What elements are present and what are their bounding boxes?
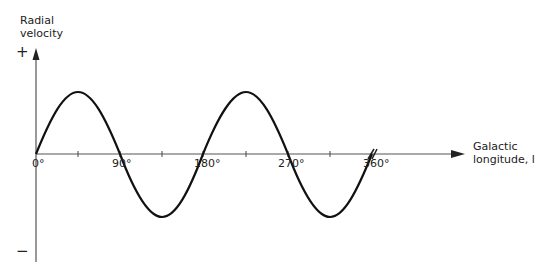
tick-label-360: 360° [363,157,390,170]
tick-label-0: 0° [32,157,45,170]
x-axis-label-line2: longitude, l [473,153,535,166]
negative-sign: − [16,242,29,260]
x-axis-arrowhead [451,150,465,158]
tick-label-270: 270° [278,157,305,170]
x-axis-label: Galactic longitude, l [473,140,535,166]
y-axis-label-line2: velocity [20,27,63,40]
x-axis-label-line1: Galactic [473,140,535,153]
y-axis-arrowhead [33,48,40,60]
y-axis-label: Radial velocity [20,14,63,40]
tick-label-90: 90° [112,157,132,170]
diagram-canvas [0,0,537,278]
positive-sign: + [16,43,29,61]
tick-label-180: 180° [194,157,221,170]
y-axis-label-line1: Radial [20,14,63,27]
